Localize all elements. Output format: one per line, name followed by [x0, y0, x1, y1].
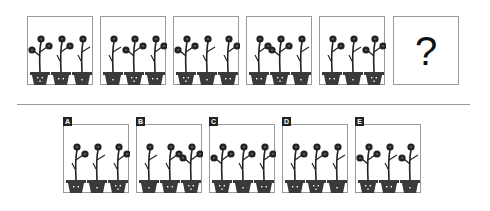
option-d[interactable]: D: [282, 124, 348, 193]
sequence-panel-3: [173, 16, 239, 85]
divider: [17, 104, 470, 105]
plant-group-icon: [64, 125, 130, 194]
sequence-panel-4: [246, 16, 312, 85]
option-e[interactable]: E: [355, 124, 421, 193]
option-a[interactable]: A: [63, 124, 129, 193]
missing-panel: ?: [393, 16, 459, 85]
plant-group-icon: [356, 125, 422, 194]
plant-group-icon: [320, 17, 386, 86]
plant-group-icon: [101, 17, 167, 86]
plant-group-icon: [283, 125, 349, 194]
plant-group-icon: [174, 17, 240, 86]
option-b[interactable]: B: [136, 124, 202, 193]
sequence-panel-5: [319, 16, 385, 85]
option-c[interactable]: C: [209, 124, 275, 193]
question-mark: ?: [394, 29, 458, 73]
plant-group-icon: [247, 17, 313, 86]
plant-group-icon: [28, 17, 94, 86]
plant-group-icon: [137, 125, 203, 194]
sequence-panel-2: [100, 16, 166, 85]
plant-group-icon: [210, 125, 276, 194]
sequence-panel-1: [27, 16, 93, 85]
